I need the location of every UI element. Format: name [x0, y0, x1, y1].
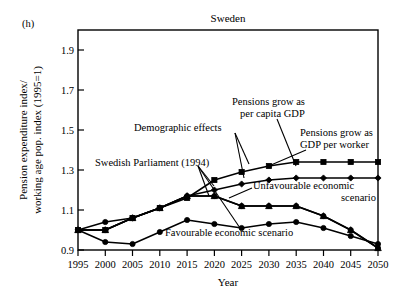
x-ticklabel: 1995 [68, 259, 89, 270]
x-ticklabel: 2005 [122, 259, 143, 270]
data-point [212, 177, 217, 182]
x-ticklabel: 2000 [95, 259, 116, 270]
data-point [157, 229, 162, 234]
data-point [157, 205, 162, 210]
data-point [212, 221, 217, 226]
annotation-unfavourable-line2: scenario [341, 192, 376, 203]
data-point [348, 159, 353, 164]
data-point [103, 239, 108, 244]
data-point [266, 163, 271, 168]
y-ticklabel: 1.9 [61, 45, 74, 56]
y-ticklabel: 1.7 [61, 85, 74, 96]
panel-label: (h) [22, 18, 35, 30]
x-ticklabel: 2050 [368, 259, 389, 270]
x-ticklabel: 2015 [177, 259, 198, 270]
data-point [375, 241, 380, 246]
y-ticklabel: 1.3 [61, 165, 74, 176]
x-ticklabel: 2010 [149, 259, 170, 270]
x-ticklabel: 2020 [204, 259, 225, 270]
data-point [266, 203, 271, 208]
data-point [130, 215, 135, 220]
data-point [321, 159, 326, 164]
annotation-demographic-effects: Demographic effects [134, 122, 222, 133]
x-ticklabel: 2040 [313, 259, 334, 270]
x-ticklabel: 2045 [340, 259, 361, 270]
annotation-unfavourable-line1: Unfavourable economic [253, 180, 355, 191]
annotation-swedish-parliament: Swedish Parliament (1994) [95, 157, 210, 169]
data-point [375, 159, 380, 164]
data-point [212, 193, 217, 198]
data-point [184, 217, 189, 222]
data-point [130, 241, 135, 246]
data-point [103, 219, 108, 224]
data-point [75, 227, 80, 232]
data-point [184, 193, 189, 198]
figure-container: (h) Sweden 0.9 1.1 1.3 1.5 1.7 1.9 1995 [0, 0, 403, 297]
chart-title: Sweden [211, 12, 246, 24]
x-ticklabel: 2030 [258, 259, 279, 270]
annotation-per-capita-gdp-line2: per capita GDP [240, 108, 305, 119]
y-ticklabel: 0.9 [61, 245, 74, 256]
data-point [321, 225, 326, 230]
y-ticklabel: 1.1 [61, 205, 74, 216]
y-axis-title-line1: Pension expenditure index/ [17, 79, 29, 200]
x-ticklabel: 2025 [231, 259, 252, 270]
y-axis-title-line2: working age pop. index (1995=1) [31, 66, 44, 214]
data-point [239, 203, 244, 208]
x-ticklabel: 2035 [286, 259, 307, 270]
y-ticklabel: 1.5 [61, 125, 74, 136]
data-point [321, 213, 326, 218]
data-point [294, 219, 299, 224]
data-point [348, 233, 353, 238]
annotation-gdp-per-worker-line2: GDP per worker [300, 139, 370, 150]
data-point [294, 203, 299, 208]
pension-expenditure-chart: (h) Sweden 0.9 1.1 1.3 1.5 1.7 1.9 1995 [0, 0, 403, 297]
x-axis-title: Year [218, 276, 239, 288]
annotation-favourable: Favourable economic scenario [165, 227, 293, 238]
data-point [348, 227, 353, 232]
data-point [266, 221, 271, 226]
annotation-gdp-per-worker-line1: Pensions grow as [300, 127, 373, 138]
annotation-per-capita-gdp-line1: Pensions grow as [232, 96, 305, 107]
